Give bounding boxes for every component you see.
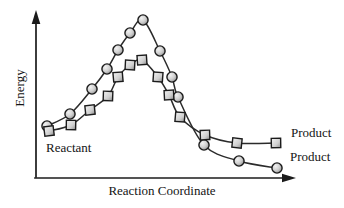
product-upper-label: Product <box>291 125 332 140</box>
square-marker <box>44 126 54 136</box>
square-marker <box>103 91 113 101</box>
circle-marker <box>87 84 97 94</box>
x-axis-arrowhead <box>282 174 296 183</box>
x-axis-label: Reaction Coordinate <box>108 183 215 198</box>
square-marker <box>175 112 185 122</box>
product-lower-label: Product <box>290 149 331 164</box>
square-marker <box>137 55 147 65</box>
square-marker <box>232 138 242 148</box>
diagram-canvas: Energy Reaction Coordinate Reactant Prod… <box>0 0 344 208</box>
circle-marker <box>272 163 282 173</box>
square-marker <box>85 105 95 115</box>
square-marker <box>271 138 281 148</box>
circle-marker <box>155 46 165 56</box>
square-marker <box>153 72 163 82</box>
circle-marker <box>125 28 135 38</box>
circle-marker <box>234 156 244 166</box>
square-marker <box>113 72 123 82</box>
circle-marker <box>138 15 148 25</box>
square-marker <box>164 90 174 100</box>
square-marker <box>200 130 210 140</box>
square-marker <box>125 60 135 70</box>
y-axis-arrowhead <box>32 10 41 24</box>
circle-marker <box>65 109 75 119</box>
reaction-energy-diagram: Energy Reaction Coordinate Reactant Prod… <box>0 0 344 208</box>
circle-marker <box>199 140 209 150</box>
y-axis-label: Energy <box>12 69 27 107</box>
square-marker <box>66 120 76 130</box>
circle-marker <box>102 64 112 74</box>
circle-marker <box>113 45 123 55</box>
circle-marker <box>167 72 177 82</box>
reactant-label: Reactant <box>46 140 92 155</box>
